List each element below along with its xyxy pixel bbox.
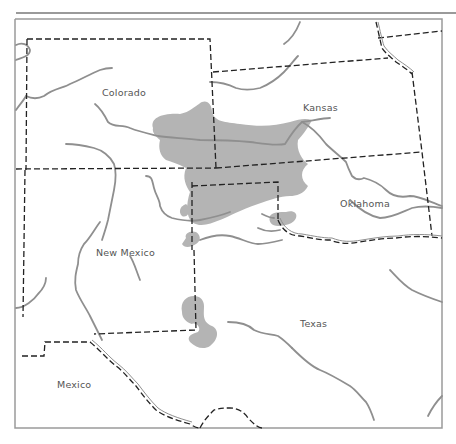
label-oklahoma: Oklahoma [340,198,390,209]
map-canvas [0,0,456,444]
label-colorado: Colorado [102,87,146,98]
boundaries [16,22,442,428]
label-new-mexico: New Mexico [96,247,155,258]
shaded-region-main [153,102,312,225]
label-mexico: Mexico [57,379,91,390]
shaded-region-nm-patch [182,231,200,247]
label-texas: Texas [300,318,327,329]
label-kansas: Kansas [303,102,338,113]
rivers [16,22,442,420]
river-boundary-overlay [92,22,442,422]
shaded-region-south-patch [182,296,217,348]
map-frame-border-lower [15,206,442,428]
